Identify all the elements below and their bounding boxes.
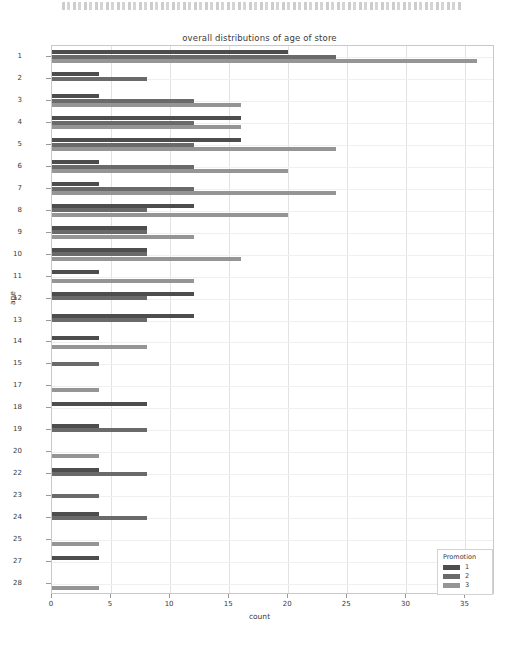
y-tick-label: 10 xyxy=(0,250,22,258)
bar-group xyxy=(52,182,493,195)
bar-series-1 xyxy=(52,336,99,340)
bar-group xyxy=(52,138,493,151)
x-tick-label: 35 xyxy=(444,600,484,608)
bar-series-2 xyxy=(52,494,99,498)
bar-series-2 xyxy=(52,362,99,366)
bar-series-1 xyxy=(52,402,147,406)
y-tick-label: 23 xyxy=(0,491,22,499)
y-tick-label: 22 xyxy=(0,469,22,477)
y-tick-label: 15 xyxy=(0,359,22,367)
bar-series-1 xyxy=(52,270,99,274)
bar-series-3 xyxy=(52,103,241,107)
y-tick-label: 9 xyxy=(0,228,22,236)
bar-group xyxy=(52,534,493,547)
y-tick-label: 6 xyxy=(0,162,22,170)
y-tick-label: 3 xyxy=(0,96,22,104)
x-axis-label: count xyxy=(0,612,519,621)
x-tick-label: 30 xyxy=(385,600,425,608)
x-tick-label: 5 xyxy=(90,600,130,608)
bar-group xyxy=(52,380,493,393)
y-tick-label: 5 xyxy=(0,140,22,148)
bar-series-3 xyxy=(52,388,99,392)
bar-series-3 xyxy=(52,125,241,129)
bar-series-2 xyxy=(52,296,147,300)
y-tick xyxy=(46,56,51,57)
bar-group xyxy=(52,292,493,305)
y-tick xyxy=(46,539,51,540)
x-tick xyxy=(110,594,111,598)
y-tick xyxy=(46,473,51,474)
bar-group xyxy=(52,578,493,591)
bar-series-2 xyxy=(52,77,147,81)
bar-group xyxy=(52,50,493,63)
y-tick-label: 8 xyxy=(0,206,22,214)
y-tick-label: 1 xyxy=(0,52,22,60)
x-tick xyxy=(287,594,288,598)
bar-group xyxy=(52,468,493,481)
y-tick xyxy=(46,78,51,79)
chart-title: overall distributions of age of store xyxy=(0,33,519,43)
bar-group xyxy=(52,402,493,415)
bar-group xyxy=(52,226,493,239)
y-tick-label: 4 xyxy=(0,118,22,126)
bar-group xyxy=(52,270,493,283)
bar-group xyxy=(52,116,493,129)
y-tick-label: 27 xyxy=(0,557,22,565)
legend-title: Promotion xyxy=(443,553,488,561)
legend-item: 2 xyxy=(443,572,488,581)
y-tick-label: 19 xyxy=(0,425,22,433)
bar-group xyxy=(52,512,493,525)
bar-group xyxy=(52,248,493,261)
y-tick xyxy=(46,232,51,233)
bar-series-2 xyxy=(52,428,147,432)
y-tick-label: 25 xyxy=(0,535,22,543)
y-tick xyxy=(46,407,51,408)
bar-series-3 xyxy=(52,191,336,195)
y-tick-label: 11 xyxy=(0,272,22,280)
y-tick xyxy=(46,276,51,277)
bar-group xyxy=(52,446,493,459)
x-tick-label: 15 xyxy=(208,600,248,608)
y-tick-label: 18 xyxy=(0,403,22,411)
y-tick-label: 14 xyxy=(0,337,22,345)
x-tick-label: 25 xyxy=(326,600,366,608)
legend-swatch xyxy=(443,565,460,570)
x-tick-label: 20 xyxy=(267,600,307,608)
x-tick xyxy=(169,594,170,598)
bar-series-2 xyxy=(52,516,147,520)
x-tick-label: 0 xyxy=(31,600,71,608)
bar-group xyxy=(52,204,493,217)
y-tick xyxy=(46,517,51,518)
x-tick-label: 10 xyxy=(149,600,189,608)
legend-item: 1 xyxy=(443,563,488,572)
bar-series-3 xyxy=(52,454,99,458)
bar-series-2 xyxy=(52,472,147,476)
window-top-strip xyxy=(0,0,519,14)
y-tick xyxy=(46,363,51,364)
bar-group xyxy=(52,336,493,349)
y-tick xyxy=(46,583,51,584)
y-tick-label: 2 xyxy=(0,74,22,82)
legend-label: 3 xyxy=(465,581,469,590)
bar-series-2 xyxy=(52,318,147,322)
y-tick-label: 12 xyxy=(0,294,22,302)
bar-series-3 xyxy=(52,235,194,239)
y-tick xyxy=(46,188,51,189)
bar-series-3 xyxy=(52,542,99,546)
y-tick-label: 13 xyxy=(0,316,22,324)
y-tick-label: 28 xyxy=(0,579,22,587)
bar-series-3 xyxy=(52,59,477,63)
bar-series-3 xyxy=(52,147,336,151)
x-tick xyxy=(228,594,229,598)
bar-group xyxy=(52,358,493,371)
y-tick-label: 17 xyxy=(0,381,22,389)
bar-group xyxy=(52,160,493,173)
y-tick xyxy=(46,100,51,101)
y-tick-label: 24 xyxy=(0,513,22,521)
y-tick xyxy=(46,254,51,255)
bar-series-3 xyxy=(52,279,194,283)
bar-group xyxy=(52,314,493,327)
x-tick xyxy=(51,594,52,598)
bar-series-3 xyxy=(52,169,288,173)
y-tick xyxy=(46,341,51,342)
